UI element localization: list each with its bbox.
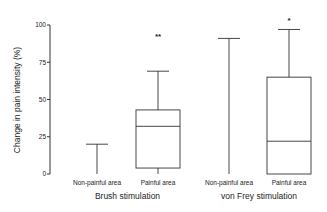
box-2: **	[136, 32, 180, 174]
box-1	[86, 144, 108, 174]
significance-marker: **	[155, 32, 162, 41]
y-tick-label: 50	[39, 96, 47, 103]
box-3	[218, 38, 240, 174]
group-label: Brush stimulation	[95, 191, 160, 201]
y-tick-label: 75	[39, 59, 47, 66]
y-axis: 0255075100	[35, 21, 50, 177]
category-label: Non-painful area	[205, 179, 253, 187]
boxes: ***	[86, 16, 311, 174]
significance-marker: *	[287, 16, 291, 25]
iqr-box	[136, 110, 180, 168]
iqr-box	[267, 77, 311, 174]
y-tick-label: 25	[39, 133, 47, 140]
y-tick-label: 0	[42, 170, 46, 177]
box-4: *	[267, 16, 311, 174]
category-label: Painful area	[141, 179, 176, 186]
group-labels: Brush stimulationvon Frey stimulation	[95, 191, 297, 201]
category-label: Non-painful area	[73, 179, 121, 187]
y-axis-label: Change in pain intensity (%)	[12, 47, 22, 153]
category-labels: Non-painful areaPainful areaNon-painful …	[73, 179, 307, 187]
y-tick-label: 100	[35, 21, 46, 28]
category-label: Painful area	[272, 179, 307, 186]
group-label: von Frey stimulation	[221, 191, 297, 201]
box-plot-chart: 0255075100 Change in pain intensity (%) …	[0, 0, 327, 212]
